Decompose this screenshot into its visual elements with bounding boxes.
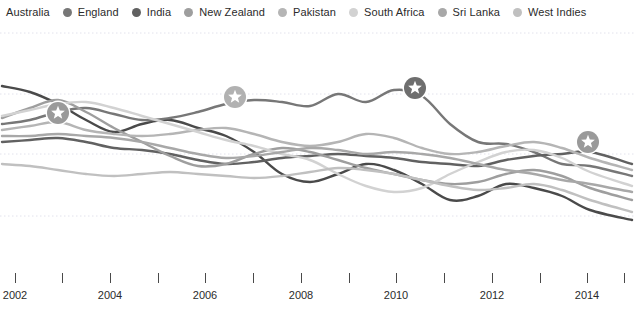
legend-item-label: England — [78, 7, 119, 18]
axis-tick-label: 2012 — [480, 289, 504, 301]
axis-tick-label: 2002 — [3, 289, 27, 301]
legend-swatch-icon — [278, 8, 287, 17]
line-chart-svg — [0, 24, 636, 269]
axis-tick — [624, 273, 625, 283]
legend-item-pakistan[interactable]: Pakistan — [278, 7, 336, 18]
star-marker-india-3[interactable] — [576, 130, 601, 155]
axis-tick — [396, 273, 397, 283]
legend-item-label: Sri Lanka — [453, 7, 500, 18]
legend-item-label: Pakistan — [293, 7, 336, 18]
axis-tick — [205, 273, 206, 283]
axis-tick — [253, 273, 254, 283]
axis-tick-label: 2014 — [575, 289, 599, 301]
chart-plot-area — [0, 24, 636, 269]
axis-tick — [62, 273, 63, 283]
axis-tick — [444, 273, 445, 283]
legend-swatch-icon — [184, 8, 193, 17]
star-marker-india-2[interactable] — [403, 76, 428, 101]
legend-item-india[interactable]: India — [132, 7, 171, 18]
legend-swatch-icon — [349, 8, 358, 17]
axis-tick — [158, 273, 159, 283]
axis-tick-label: 2010 — [384, 289, 408, 301]
axis-tick — [110, 273, 111, 283]
legend-swatch-icon — [63, 8, 72, 17]
legend-item-label: New Zealand — [199, 7, 265, 18]
axis-tick-label: 2008 — [289, 289, 313, 301]
legend-item-england[interactable]: England — [63, 7, 119, 18]
star-marker-australia-1[interactable] — [223, 85, 248, 110]
legend-swatch-icon — [438, 8, 447, 17]
legend-item-new-zealand[interactable]: New Zealand — [184, 7, 265, 18]
legend-swatch-icon — [513, 8, 522, 17]
axis-tick-label: 2006 — [193, 289, 217, 301]
x-axis: 2002200420062008201020122014 — [0, 269, 636, 315]
axis-tick — [492, 273, 493, 283]
axis-tick — [301, 273, 302, 283]
legend-item-sri-lanka[interactable]: Sri Lanka — [438, 7, 500, 18]
legend-swatch-icon — [132, 8, 141, 17]
series-lines — [2, 86, 632, 220]
axis-tick — [349, 273, 350, 283]
chart-legend: AustraliaEnglandIndiaNew ZealandPakistan… — [0, 0, 636, 24]
legend-item-label: West Indies — [528, 7, 586, 18]
legend-item-label: India — [147, 7, 171, 18]
star-marker-australia-0[interactable] — [46, 101, 71, 126]
legend-item-south-africa[interactable]: South Africa — [349, 7, 425, 18]
axis-tick — [15, 273, 16, 283]
legend-item-label: South Africa — [364, 7, 425, 18]
legend-item-label: Australia — [6, 7, 50, 18]
axis-tick — [540, 273, 541, 283]
legend-item-west-indies[interactable]: West Indies — [513, 7, 586, 18]
axis-tick-label: 2004 — [98, 289, 122, 301]
legend-item-australia[interactable]: Australia — [6, 7, 50, 18]
axis-tick — [587, 273, 588, 283]
